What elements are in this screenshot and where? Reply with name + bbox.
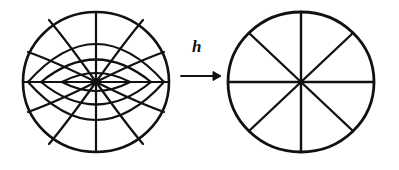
conformal-map-figure: h xyxy=(0,0,399,170)
target-center-point xyxy=(298,79,303,84)
target-disk-graphic xyxy=(0,0,399,170)
